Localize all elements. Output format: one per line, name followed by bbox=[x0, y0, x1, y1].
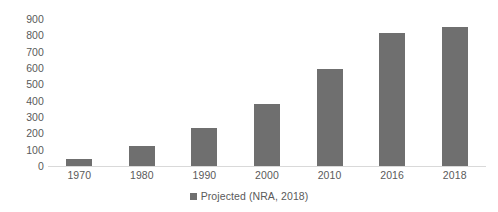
y-axis-tick-label: 500 bbox=[0, 79, 44, 89]
x-axis-tick-label: 1970 bbox=[48, 168, 111, 182]
y-axis: 0100200300400500600700800900 bbox=[0, 19, 44, 166]
y-axis-tick-label: 800 bbox=[0, 30, 44, 40]
y-axis-tick-label: 700 bbox=[0, 47, 44, 57]
x-axis-baseline bbox=[48, 166, 486, 167]
y-axis-tick-label: 200 bbox=[0, 128, 44, 138]
x-axis: 1970198019902000201020162018 bbox=[48, 168, 486, 184]
bar-chart-figure: 0100200300400500600700800900 19701980199… bbox=[0, 0, 498, 212]
bar[interactable] bbox=[191, 128, 217, 166]
bar[interactable] bbox=[442, 27, 468, 166]
bars-layer bbox=[48, 19, 486, 166]
bar[interactable] bbox=[129, 146, 155, 166]
y-axis-tick-label: 0 bbox=[0, 161, 44, 171]
bar[interactable] bbox=[379, 33, 405, 166]
x-axis-tick-label: 2018 bbox=[423, 168, 486, 182]
bar-slot bbox=[111, 19, 174, 166]
x-axis-tick-label: 2016 bbox=[361, 168, 424, 182]
x-axis-tick-label: 2010 bbox=[298, 168, 361, 182]
chart-legend: Projected (NRA, 2018) bbox=[0, 190, 498, 202]
bar-slot bbox=[423, 19, 486, 166]
x-axis-tick-label: 1980 bbox=[111, 168, 174, 182]
y-axis-tick-label: 400 bbox=[0, 96, 44, 106]
legend-swatch-icon bbox=[190, 193, 197, 200]
bar-slot bbox=[48, 19, 111, 166]
bar[interactable] bbox=[317, 69, 343, 166]
y-axis-tick-label: 600 bbox=[0, 63, 44, 73]
bar[interactable] bbox=[254, 104, 280, 166]
x-axis-tick-label: 2000 bbox=[236, 168, 299, 182]
y-axis-tick-label: 900 bbox=[0, 14, 44, 24]
legend-label: Projected (NRA, 2018) bbox=[201, 190, 309, 202]
bar-slot bbox=[173, 19, 236, 166]
bar-slot bbox=[298, 19, 361, 166]
bar-slot bbox=[236, 19, 299, 166]
bar[interactable] bbox=[66, 159, 92, 166]
y-axis-tick-label: 300 bbox=[0, 112, 44, 122]
x-axis-tick-label: 1990 bbox=[173, 168, 236, 182]
bar-slot bbox=[361, 19, 424, 166]
y-axis-tick-label: 100 bbox=[0, 145, 44, 155]
